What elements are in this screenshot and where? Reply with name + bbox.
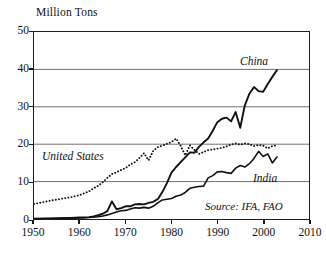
- y-axis-tick-label: 40: [0, 63, 29, 75]
- y-axis-tick-mark: [29, 182, 33, 183]
- y-axis-tick-mark: [29, 68, 33, 69]
- plot-area: [33, 31, 310, 220]
- x-axis-tick-mark: [309, 220, 310, 224]
- x-axis-tick-label: 1950: [10, 227, 56, 239]
- x-axis-tick-mark: [171, 220, 172, 224]
- y-axis-tick-mark: [29, 31, 33, 32]
- x-axis-tick-label: 2000: [241, 227, 287, 239]
- y-axis-tick-label: 10: [0, 176, 29, 188]
- x-axis-tick-label: 2010: [287, 227, 326, 239]
- y-axis-tick-label: 50: [0, 25, 29, 37]
- x-axis-tick-mark: [32, 220, 33, 224]
- x-axis-tick-mark: [217, 220, 218, 224]
- y-axis-tick-label: 20: [0, 138, 29, 150]
- series-label-india: India: [253, 172, 277, 184]
- x-axis-tick-label: 1990: [195, 227, 241, 239]
- y-axis-tick-label: 30: [0, 101, 29, 113]
- y-axis-tick-mark: [29, 106, 33, 107]
- y-axis-tick-label: 0: [0, 214, 29, 226]
- series-label-china: China: [240, 55, 268, 67]
- y-axis-tick-mark: [29, 144, 33, 145]
- x-axis-tick-mark: [78, 220, 79, 224]
- x-axis-tick-label: 1960: [56, 227, 102, 239]
- x-axis-tick-label: 1970: [102, 227, 148, 239]
- x-axis-tick-label: 1980: [149, 227, 195, 239]
- series-label-united-states: United States: [42, 150, 104, 162]
- y-axis-title: Million Tons: [36, 6, 98, 18]
- series-line-united-states: [34, 139, 277, 204]
- x-axis-tick-mark: [263, 220, 264, 224]
- fertilizer-consumption-chart: Million Tons 01020304050 195019601970198…: [0, 0, 326, 254]
- x-axis-tick-mark: [125, 220, 126, 224]
- source-note: Source: IFA, FAO: [205, 200, 283, 212]
